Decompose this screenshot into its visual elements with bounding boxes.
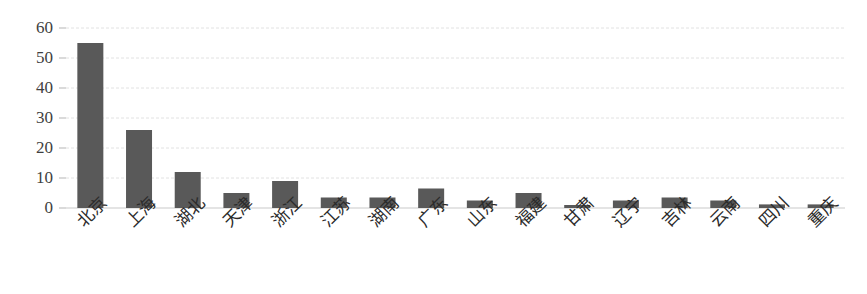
x-tick-label-云南: 云南 (707, 193, 744, 230)
y-tick-label-50: 50 (36, 48, 53, 67)
axis-tickmarks (59, 28, 66, 208)
x-tick-label-山东: 山东 (463, 193, 500, 230)
x-tick-label-四川: 四川 (755, 193, 792, 230)
bar-北京 (77, 43, 103, 208)
y-tick-label-60: 60 (36, 18, 53, 37)
x-tick-label-甘肃: 甘肃 (561, 193, 598, 230)
bar-chart: 0102030405060 北京上海湖北天津浙江江苏湖南广东山东福建甘肃辽宁吉林… (0, 0, 867, 294)
x-tick-label-辽宁: 辽宁 (609, 193, 646, 230)
bars (77, 43, 833, 208)
y-tick-label-20: 20 (36, 138, 53, 157)
x-axis-labels: 北京上海湖北天津浙江江苏湖南广东山东福建甘肃辽宁吉林云南四川重庆 (74, 193, 842, 230)
x-tick-label-重庆: 重庆 (804, 193, 841, 230)
y-axis-labels: 0102030405060 (36, 18, 53, 217)
y-tick-label-0: 0 (45, 198, 54, 217)
y-tick-label-40: 40 (36, 78, 53, 97)
chart-canvas: 0102030405060 北京上海湖北天津浙江江苏湖南广东山东福建甘肃辽宁吉林… (0, 0, 867, 294)
y-tick-label-10: 10 (36, 168, 53, 187)
y-tick-label-30: 30 (36, 108, 53, 127)
